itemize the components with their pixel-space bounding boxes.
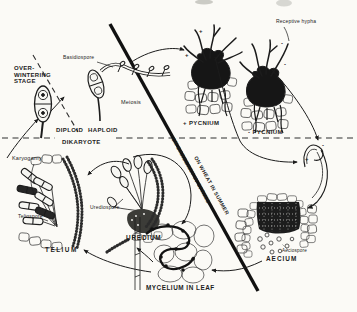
teliospore-label: Teliospore: [18, 214, 43, 220]
plus-sign-hypha: +: [199, 28, 203, 35]
minus-pycnium-label: - PYCNIUM: [248, 129, 283, 136]
plus-sign-fusion: +: [305, 156, 309, 163]
telium-label: TELIUM: [45, 246, 78, 253]
overwintering-stage-label: OVER- WINTERING STAGE: [14, 65, 51, 85]
minus-sign-fusion: -: [322, 142, 324, 149]
mycelium-in-leaf-label: MYCELIUM IN LEAF: [146, 284, 215, 291]
diploid-label: DIPLOID: [56, 127, 83, 134]
plus-pycnium-label: + PYCNIUM: [183, 120, 219, 127]
basidiospore-label: Basidiospore: [63, 55, 94, 61]
karyogamy-label: Karyogamy: [12, 155, 42, 161]
receptive-hypha-curl: [304, 145, 327, 208]
top-edge-artifacts: [195, 0, 292, 7]
meiosis-label: Meiosis: [121, 99, 141, 105]
haploid-label: HAPLOID: [88, 127, 118, 134]
uredium-label: UREDIUM: [126, 234, 161, 241]
urediospore-label: Urediospore: [90, 205, 119, 211]
minus-pycnium-drawing: [240, 27, 293, 133]
ploidy-boundary-lines: [2, 55, 356, 138]
receptive-hypha-label: Receptive hypha: [276, 19, 316, 25]
aecium-label: AECIUM: [266, 255, 297, 262]
plus-sign-flask: +: [185, 52, 189, 59]
minus-sign-hypha: -: [281, 40, 283, 47]
dikaryote-label: DIKARYOTE: [62, 139, 101, 146]
overwintering-teliospore-drawing: [35, 86, 52, 138]
plus-pycnium-drawing: [184, 25, 242, 116]
aeciospore-label: Aeciospore: [282, 248, 307, 253]
rust-lifecycle-diagram: OVER- WINTERING STAGE Basidiospore Meios…: [0, 0, 357, 312]
telium-drawing: [17, 154, 82, 250]
minus-sign-flask: -: [284, 61, 286, 68]
